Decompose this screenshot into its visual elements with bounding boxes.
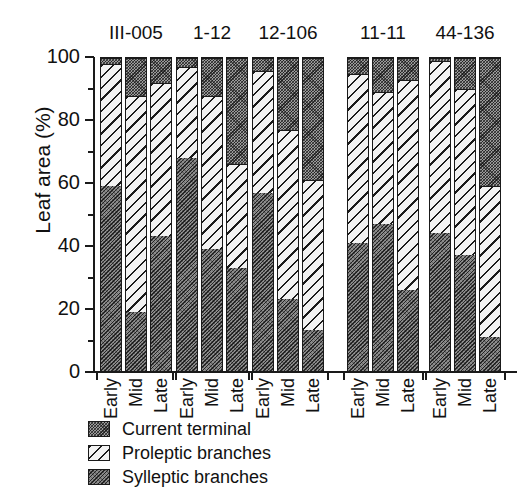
segment-proleptic [126,96,146,312]
legend-item-sylleptic: Sylleptic branches [88,465,271,489]
segment-sylleptic [151,236,171,371]
bar-iii-005-late [150,57,172,372]
y-tick-label-text: 80 [34,109,80,129]
segment-sylleptic [126,312,146,371]
legend-swatch-icon [88,469,110,485]
segment-current [278,58,298,130]
segment-proleptic [348,74,368,243]
bar-44-136-mid [454,57,476,372]
x-axis-label-late: Late [303,378,324,448]
legend-label: Current terminal [122,419,251,440]
bar-11-11-late [397,57,419,372]
x-tick-12-106-1 [327,373,329,380]
bar-12-106-late [302,57,324,372]
segment-sylleptic [430,233,450,371]
segment-sylleptic [455,255,475,371]
bar-1-12-late [226,57,248,372]
legend-item-current: Current terminal [88,417,271,441]
y-tick-label-text: 100 [34,46,80,66]
segment-proleptic [455,89,475,255]
bar-1-12-mid [201,57,223,372]
segment-current [227,58,247,164]
segment-proleptic [373,92,393,223]
bar-44-136-early [429,57,451,372]
segment-proleptic [101,64,121,186]
x-axis-label-late: Late [398,378,419,448]
segment-current [126,58,146,96]
y-tick-20 [85,308,94,310]
segment-sylleptic [373,224,393,371]
x-axis-label-early: Early [430,378,451,448]
segment-sylleptic [348,243,368,371]
segment-current [348,58,368,74]
bar-1-12-early [176,57,198,372]
group-title-1-12: 1-12 [176,22,248,44]
bar-11-11-early [347,57,369,372]
x-tick-iii-005-0 [96,373,98,380]
x-axis-label-mid: Mid [278,378,299,448]
segment-current [177,58,197,67]
y-tick-label-80: 80 [30,109,80,129]
y-tick-minor-30 [88,277,94,279]
y-tick-label-20: 20 [30,298,80,318]
x-axis-label-late: Late [480,378,501,448]
legend-item-proleptic: Proleptic branches [88,441,271,465]
y-tick-label-text: 0 [34,361,80,381]
bar-iii-005-mid [125,57,147,372]
y-tick-label-text: 40 [34,235,80,255]
group-title-11-11: 11-11 [347,22,419,44]
y-tick-minor-50 [88,214,94,216]
x-tick-44-136-0 [425,373,427,380]
group-title-iii-005: III-005 [100,22,172,44]
group-title-12-106: 12-106 [252,22,324,44]
y-tick-label-text: 20 [34,298,80,318]
segment-proleptic [480,186,500,336]
segment-sylleptic [177,158,197,371]
y-tick-minor-90 [88,88,94,90]
x-tick-11-11-1 [422,373,424,380]
y-tick-100 [85,56,94,58]
segment-proleptic [430,61,450,233]
bar-44-136-late [479,57,501,372]
segment-sylleptic [227,268,247,371]
segment-sylleptic [480,337,500,371]
leaf-area-stacked-bar-chart: Leaf area (%) 100806040200 III-0051-1212… [0,0,530,504]
segment-sylleptic [398,290,418,371]
bar-11-11-mid [372,57,394,372]
y-tick-minor-10 [88,340,94,342]
y-tick-40 [85,245,94,247]
segment-proleptic [303,180,323,330]
segment-sylleptic [202,249,222,371]
x-tick-12-106-0 [248,373,250,380]
y-tick-label-60: 60 [30,172,80,192]
segment-proleptic [278,130,298,299]
y-tick-minor-70 [88,151,94,153]
legend-label: Sylleptic branches [122,467,268,488]
x-axis-label-early: Early [348,378,369,448]
segment-sylleptic [253,193,273,371]
x-tick-1-12-0 [172,373,174,380]
bar-12-106-mid [277,57,299,372]
legend-label: Proleptic branches [122,443,271,464]
bar-iii-005-early [100,57,122,372]
segment-proleptic [398,80,418,290]
segment-current [455,58,475,89]
x-axis-label-mid: Mid [455,378,476,448]
x-tick-11-11-0 [343,373,345,380]
segment-current [303,58,323,180]
bar-12-106-early [252,57,274,372]
segment-proleptic [177,67,197,158]
group-title-44-136: 44-136 [429,22,501,44]
segment-sylleptic [278,299,298,371]
plot-area [95,57,515,372]
legend-swatch-icon [88,445,110,461]
x-tick-44-136-1 [504,373,506,380]
segment-proleptic [202,96,222,249]
segment-current [373,58,393,92]
segment-sylleptic [101,186,121,371]
segment-current [398,58,418,80]
segment-sylleptic [303,330,323,371]
segment-current [253,58,273,71]
y-tick-80 [85,119,94,121]
chart-legend: Current terminalProleptic branchesSyllep… [88,417,271,489]
